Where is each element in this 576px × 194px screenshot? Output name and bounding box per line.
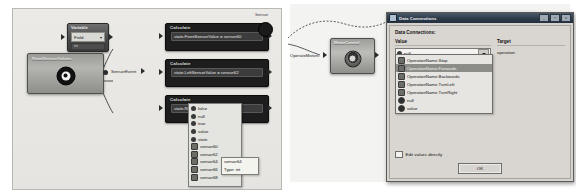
operate-motors-label: OperateMotors (290, 53, 319, 58)
target-column-header: Target (497, 39, 565, 46)
autocomplete-item-label: sensor60 (200, 144, 218, 149)
variable-node[interactable]: Variable Field ▾ int (67, 23, 109, 52)
left-diagram-panel: Variable Field ▾ int ReadSensorValues Se… (0, 0, 288, 194)
autocomplete-item-label: null (198, 114, 205, 119)
variable-type-label: int (71, 43, 105, 50)
autocomplete-item[interactable]: sensor60 (189, 143, 241, 151)
field-square-icon (191, 158, 198, 165)
autocomplete-item[interactable]: true (189, 120, 241, 128)
autocomplete-item-label: state (198, 137, 207, 142)
calculate-node-3-output-port[interactable] (268, 105, 272, 111)
autocomplete-tooltip: sensor64 Type: int (221, 157, 259, 175)
keyword-dot-icon (191, 106, 196, 111)
calculate-node-2-input-port[interactable] (159, 69, 163, 75)
target-column: Target operation (491, 39, 565, 59)
tooltip-type: Type: int (222, 166, 258, 174)
read-sensor-node[interactable]: ReadSensorValues (27, 53, 104, 94)
field-square-icon (191, 151, 198, 158)
calculate-node-2-title: Calculate (166, 60, 268, 67)
field-square-icon (191, 174, 198, 181)
dropdown-option[interactable]: OperationName.Stop (396, 56, 492, 64)
data-connections-dialog[interactable]: Data Connections _ □ x Data Connections:… (386, 12, 574, 182)
dropdown-option-selected[interactable]: OperationName.Forwards (396, 64, 492, 72)
variable-field-select[interactable]: Field ▾ (71, 32, 105, 42)
calculate-node-1-input-port[interactable] (159, 33, 163, 39)
sensor-event-arrow (141, 68, 145, 74)
maximize-button[interactable]: □ (550, 14, 560, 22)
autocomplete-item-label: value (198, 129, 208, 134)
autocomplete-item[interactable]: null (189, 113, 241, 121)
close-button[interactable]: x (561, 14, 571, 22)
dialog-titlebar[interactable]: Data Connections _ □ x (387, 13, 573, 23)
enum-icon (398, 81, 405, 88)
dialog-title: Data Connections (399, 16, 436, 21)
target-value[interactable]: operation (497, 50, 565, 55)
variable-output-port[interactable] (109, 34, 113, 40)
chevron-down-icon: ▾ (100, 35, 102, 40)
motor-control-node[interactable]: MotorControl (330, 38, 375, 74)
variable-node-title: Variable (68, 24, 108, 31)
keyword-dot-icon (191, 137, 196, 142)
motor-gear-icon (344, 50, 361, 67)
edit-values-label: Edit values directly (406, 152, 443, 157)
calculate-node-3-title: Calculate (166, 96, 268, 103)
calculate-node-2-output-port[interactable] (268, 69, 272, 75)
edit-values-checkbox[interactable] (395, 151, 403, 159)
value-dropdown-list[interactable]: OperationName.Stop OperationName.Forward… (395, 54, 493, 114)
enum-icon (398, 89, 405, 96)
dialog-footer: Edit values directly OK (390, 151, 570, 179)
autocomplete-item[interactable]: false (189, 105, 241, 113)
keyword-dot-icon (191, 129, 196, 134)
edit-values-row[interactable]: Edit values directly (395, 151, 565, 159)
sensor-event-label: SensorEvent (111, 69, 136, 74)
dropdown-option[interactable]: OperationName.Backwards (396, 72, 492, 80)
field-square-icon (191, 143, 198, 150)
autocomplete-item[interactable]: value (189, 128, 241, 136)
keyword-dot-icon (191, 114, 196, 119)
dropdown-option[interactable]: OperationName.TurnRight (396, 88, 492, 96)
calculate-node-2[interactable]: Calculate state.LeftSensorValue = sensor… (165, 59, 269, 87)
calculate-node-1-expression[interactable]: state.FrontSensorValue = sensor60 (171, 32, 263, 41)
autocomplete-item-label: sensor64 (200, 159, 218, 164)
enum-icon (398, 65, 405, 72)
dropdown-option-label: null (407, 98, 414, 103)
ok-button[interactable]: OK (458, 163, 502, 174)
minimize-button[interactable]: _ (539, 14, 549, 22)
autocomplete-item-label: true (198, 121, 205, 126)
dropdown-option[interactable]: null (396, 96, 492, 104)
autocomplete-item-label: sensor68 (200, 175, 218, 180)
enum-icon (398, 57, 405, 64)
dropdown-option-label: OperationName.Backwards (407, 74, 460, 79)
dropdown-option[interactable]: OperationName.TurnLeft (396, 80, 492, 88)
motor-input-arrow[interactable] (323, 52, 327, 58)
calculate-node-2-expression[interactable]: state.LeftSensorValue = sensor62 (171, 68, 263, 77)
calculate-node-1-title: Calculate (166, 24, 268, 31)
dropdown-option-label: value (407, 106, 417, 111)
calculate-node-3-input-port[interactable] (159, 105, 163, 111)
keyword-dot-icon (398, 105, 405, 112)
calculate-node-1[interactable]: Calculate state.FrontSensorValue = senso… (165, 23, 269, 51)
variable-input-port[interactable] (61, 34, 65, 40)
dropdown-option-label: OperationName.Forwards (407, 66, 456, 71)
sensor-event-port[interactable] (103, 70, 108, 75)
dialog-section-label: Data Connections: (395, 30, 565, 35)
motor-control-node-title: MotorControl (331, 39, 374, 46)
dialog-body: Data Connections: Value null Target oper… (389, 25, 571, 179)
autocomplete-item[interactable]: state (189, 135, 241, 143)
tooltip-name: sensor64 (222, 158, 258, 166)
dropdown-option-label: OperationName.Stop (407, 58, 447, 63)
window-buttons: _ □ x (539, 14, 571, 22)
enum-icon (398, 73, 405, 80)
window-icon (389, 14, 397, 22)
dropdown-option[interactable]: value (396, 104, 492, 112)
start-node[interactable] (258, 22, 273, 37)
read-sensor-node-title: ReadSensorValues (28, 54, 103, 62)
keyword-dot-icon (191, 121, 196, 126)
autocomplete-item-label: sensor62 (200, 152, 218, 157)
field-square-icon (191, 166, 198, 173)
variable-field-label: Field (74, 35, 84, 40)
sensor-eye-icon (56, 66, 75, 85)
keyword-dot-icon (398, 97, 405, 104)
motor-output-arrow[interactable] (375, 52, 379, 58)
value-column-header: Value (395, 39, 491, 46)
